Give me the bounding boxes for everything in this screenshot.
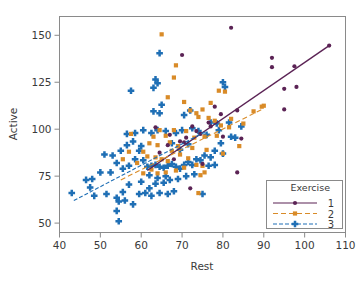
data-point bbox=[196, 115, 200, 119]
data-point bbox=[194, 129, 198, 133]
y-axis-title: Active bbox=[7, 108, 19, 140]
data-point bbox=[168, 133, 172, 137]
data-point bbox=[209, 101, 213, 105]
data-point bbox=[282, 107, 286, 111]
data-point bbox=[188, 186, 192, 190]
data-point bbox=[293, 201, 297, 205]
data-point bbox=[160, 32, 164, 36]
x-tick-label: 60 bbox=[135, 239, 148, 251]
data-point bbox=[180, 53, 184, 57]
data-point bbox=[282, 87, 286, 91]
data-point bbox=[121, 157, 125, 161]
y-tick-label: 50 bbox=[38, 217, 51, 229]
data-point bbox=[196, 191, 200, 195]
x-tick-label: 70 bbox=[175, 239, 188, 251]
data-point bbox=[200, 107, 204, 111]
data-point bbox=[172, 75, 176, 79]
data-point bbox=[223, 90, 227, 94]
data-point bbox=[158, 128, 162, 132]
data-point bbox=[219, 123, 223, 127]
y-tick-label: 100 bbox=[31, 123, 51, 135]
data-point bbox=[182, 100, 186, 104]
data-point bbox=[184, 136, 188, 140]
data-point bbox=[198, 173, 202, 177]
data-point bbox=[251, 109, 255, 113]
data-point bbox=[166, 143, 170, 147]
x-tick-label: 100 bbox=[295, 239, 315, 251]
data-point bbox=[172, 128, 176, 132]
y-tick-label: 150 bbox=[31, 29, 51, 41]
x-tick-label: 90 bbox=[257, 239, 270, 251]
data-point bbox=[194, 163, 198, 167]
legend-label: 1 bbox=[328, 198, 334, 209]
data-point bbox=[145, 154, 149, 158]
data-point bbox=[155, 171, 159, 175]
data-point bbox=[174, 168, 178, 172]
data-point bbox=[129, 132, 133, 136]
data-point bbox=[166, 159, 170, 163]
data-point bbox=[213, 119, 217, 123]
data-point bbox=[239, 136, 243, 140]
data-point bbox=[241, 121, 245, 125]
data-point bbox=[178, 152, 182, 156]
legend-title: Exercise bbox=[290, 182, 330, 193]
data-point bbox=[182, 166, 186, 170]
data-point bbox=[270, 56, 274, 60]
data-point bbox=[207, 116, 211, 120]
data-point bbox=[221, 152, 225, 156]
data-point bbox=[200, 162, 204, 166]
data-point bbox=[221, 135, 225, 139]
data-point bbox=[141, 171, 145, 175]
scatter-plot-figure: 405060708090100110 5075100125150 Rest Ac… bbox=[0, 0, 363, 285]
x-tick-label: 40 bbox=[53, 239, 66, 251]
data-point bbox=[207, 121, 211, 125]
data-point bbox=[141, 150, 145, 154]
data-point bbox=[155, 143, 159, 147]
data-point bbox=[147, 141, 151, 145]
chart-canvas: 405060708090100110 5075100125150 Rest Ac… bbox=[0, 0, 363, 285]
data-point bbox=[219, 112, 223, 116]
data-point bbox=[158, 151, 162, 155]
data-point bbox=[262, 104, 266, 108]
data-point bbox=[190, 146, 194, 150]
data-point bbox=[172, 157, 176, 161]
data-point bbox=[186, 156, 190, 160]
legend-label: 3 bbox=[328, 219, 334, 230]
legend-label: 2 bbox=[328, 209, 334, 220]
data-point bbox=[270, 65, 274, 69]
x-tick-label: 50 bbox=[94, 239, 107, 251]
data-point bbox=[135, 161, 139, 165]
data-point bbox=[204, 148, 208, 152]
data-point bbox=[202, 135, 206, 139]
data-point bbox=[194, 111, 198, 115]
x-tick-label: 80 bbox=[216, 239, 229, 251]
data-point bbox=[229, 26, 233, 30]
data-point bbox=[164, 170, 168, 174]
data-point bbox=[153, 125, 157, 129]
data-point bbox=[235, 170, 239, 174]
y-tick-label: 125 bbox=[31, 76, 51, 88]
data-point bbox=[188, 108, 192, 112]
data-point bbox=[294, 85, 298, 89]
data-point bbox=[202, 170, 206, 174]
data-point bbox=[184, 129, 188, 133]
data-point bbox=[127, 150, 131, 154]
x-axis-title: Rest bbox=[191, 260, 214, 272]
data-point bbox=[164, 134, 168, 138]
legend[interactable]: Exercise 123 bbox=[267, 181, 343, 231]
data-point bbox=[217, 89, 221, 93]
data-point bbox=[178, 139, 182, 143]
data-point bbox=[174, 63, 178, 67]
data-point bbox=[151, 135, 155, 139]
y-tick-label: 75 bbox=[38, 170, 51, 182]
data-point bbox=[215, 134, 219, 138]
data-point bbox=[190, 124, 194, 128]
x-tick-label: 110 bbox=[335, 239, 355, 251]
data-point bbox=[293, 211, 297, 215]
data-point bbox=[213, 105, 217, 109]
data-point bbox=[166, 95, 170, 99]
data-point bbox=[237, 144, 241, 148]
data-point bbox=[229, 117, 233, 121]
